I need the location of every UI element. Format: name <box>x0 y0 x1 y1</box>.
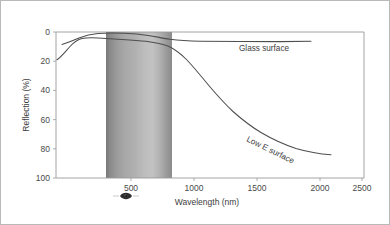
eye-icon <box>113 193 139 199</box>
reflection-vs-wavelength-chart: 0 20 40 60 80 100 500 1000 1500 2000 250… <box>0 0 390 225</box>
x-tick-label-2500: 2500 <box>353 183 372 193</box>
plot-area-border <box>56 32 364 178</box>
x-tick-label-1500: 1500 <box>248 183 267 193</box>
x-tick-label-1000: 1000 <box>185 183 204 193</box>
curve-glass-surface <box>62 33 311 44</box>
series-label-low-e-surface: Low E surface <box>245 135 296 166</box>
chart-canvas: 0 20 40 60 80 100 500 1000 1500 2000 250… <box>0 0 390 225</box>
y-tick-label-100: 100 <box>36 173 50 183</box>
curve-low-e-surface <box>57 38 331 155</box>
y-tick-label-60: 60 <box>41 115 51 125</box>
y-tick-label-40: 40 <box>41 85 51 95</box>
x-tick-label-2000: 2000 <box>311 183 330 193</box>
y-tick-label-0: 0 <box>45 27 50 37</box>
y-tick-label-20: 20 <box>41 56 51 66</box>
y-axis-title: Reflection (%) <box>21 78 31 132</box>
x-tick-label-500: 500 <box>124 183 138 193</box>
series-label-glass-surface: Glass surface <box>239 44 289 53</box>
y-tick-label-80: 80 <box>41 144 51 154</box>
visible-spectrum-band <box>106 32 172 178</box>
x-axis-title: Wavelength (nm) <box>175 197 240 207</box>
